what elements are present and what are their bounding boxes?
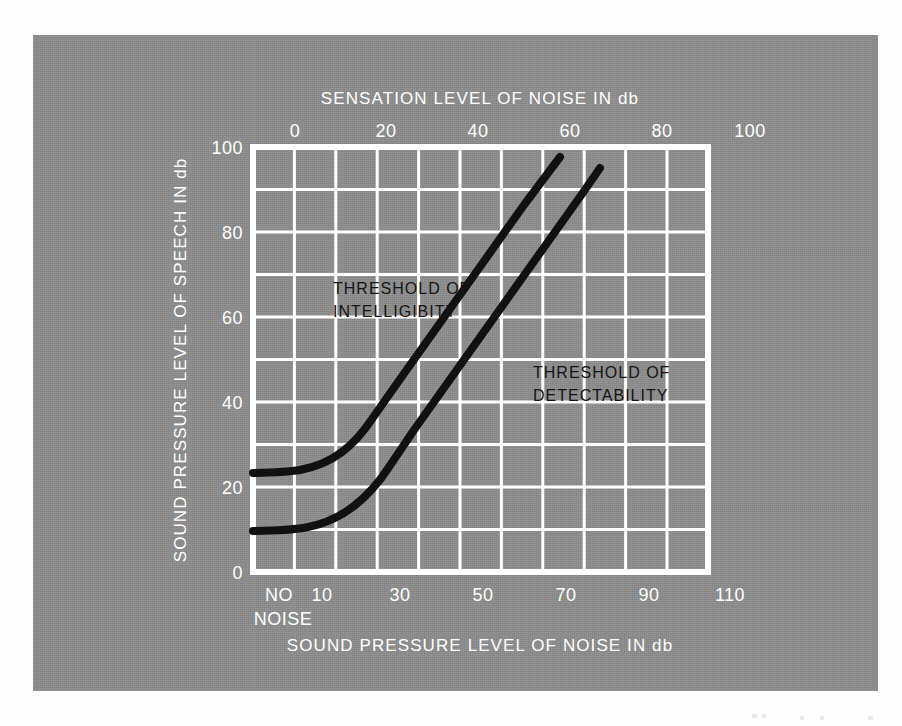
top-tick-20: 20 — [375, 121, 396, 141]
y-tick-20: 20 — [222, 478, 243, 498]
page-root: SENSATION LEVEL OF NOISE IN db 0 20 40 6… — [0, 0, 902, 726]
x-axis-tick-labels: NO NOISE 10 30 50 70 90 110 — [254, 585, 745, 629]
scan-artifact-5 — [868, 716, 873, 720]
top-tick-60: 60 — [559, 121, 580, 141]
top-axis-title: SENSATION LEVEL OF NOISE IN db — [321, 89, 639, 108]
x-tick-30: 30 — [389, 585, 410, 605]
annotation-intelligibity: THRESHOLD OF INTELLIGIBITY — [333, 280, 470, 320]
y-axis-title: SOUND PRESSURE LEVEL OF SPEECH IN db — [171, 158, 190, 563]
scan-artifact-4 — [820, 716, 824, 720]
curve-threshold-of-detectability — [253, 168, 600, 531]
x-tick-10: 10 — [311, 585, 332, 605]
x-tick-110: 110 — [715, 585, 745, 605]
y-tick-0: 0 — [232, 563, 243, 583]
y-tick-100: 100 — [211, 138, 243, 158]
annotation-detectability-line1: THRESHOLD OF — [533, 364, 670, 381]
x-tick-90: 90 — [638, 585, 659, 605]
y-axis-tick-labels: 0 20 40 60 80 100 — [211, 138, 243, 583]
y-tick-80: 80 — [222, 223, 243, 243]
annotation-intelligibity-line1: THRESHOLD OF — [333, 280, 470, 297]
annotation-detectability-line2: DETECTABILITY — [533, 387, 668, 404]
top-tick-80: 80 — [651, 121, 672, 141]
annotation-detectability: THRESHOLD OF DETECTABILITY — [533, 364, 670, 404]
threshold-chart: SENSATION LEVEL OF NOISE IN db 0 20 40 6… — [0, 0, 902, 726]
scan-artifact-1 — [752, 714, 757, 718]
x-tick-70: 70 — [555, 585, 576, 605]
top-tick-100: 100 — [734, 121, 766, 141]
chart-gridlines — [253, 147, 708, 572]
top-tick-0: 0 — [290, 121, 301, 141]
y-tick-40: 40 — [222, 393, 243, 413]
top-tick-40: 40 — [467, 121, 488, 141]
scan-artifact-2 — [762, 714, 766, 718]
x-tick-noise-sub: NOISE — [254, 609, 313, 629]
x-tick-no: NO — [265, 585, 293, 605]
x-axis-title: SOUND PRESSURE LEVEL OF NOISE IN db — [287, 636, 673, 655]
scan-artifact-3 — [800, 716, 804, 720]
y-tick-60: 60 — [222, 308, 243, 328]
annotation-intelligibity-line2: INTELLIGIBITY — [333, 303, 457, 320]
top-axis-tick-labels: 0 20 40 60 80 100 — [290, 121, 766, 141]
x-tick-50: 50 — [472, 585, 493, 605]
